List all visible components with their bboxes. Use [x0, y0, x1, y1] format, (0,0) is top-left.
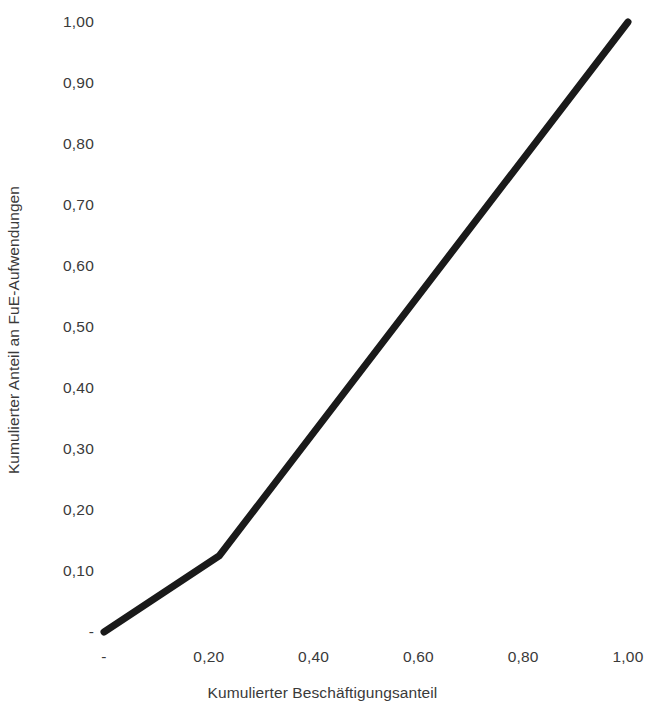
x-axis-tick-label: 0,80: [508, 648, 539, 666]
y-axis-tick-label: 0,10: [30, 562, 94, 580]
y-axis-title-text: Kumulierter Anteil an FuE-Aufwendungen: [5, 186, 23, 474]
x-axis-tick-label: -: [101, 648, 106, 666]
x-axis-tick-label: 0,60: [403, 648, 434, 666]
y-axis-tick-label: 1,00: [30, 13, 94, 31]
y-axis-tick-label: 0,40: [30, 379, 94, 397]
lorenz-curve-chart: Kumulierter Anteil an FuE-Aufwendungen -…: [0, 0, 645, 712]
series-lorenzkurve: [96, 14, 636, 640]
y-axis-tick-label: 0,20: [30, 501, 94, 519]
plot-area: [104, 22, 628, 632]
y-axis-tick-label: -: [30, 623, 94, 641]
x-axis-title: Kumulierter Beschäftigungsanteil: [0, 684, 645, 702]
y-axis-title: Kumulierter Anteil an FuE-Aufwendungen: [0, 0, 28, 660]
x-axis-tick-label: 0,20: [193, 648, 224, 666]
y-axis-tick-labels: -0,100,200,300,400,500,600,700,800,901,0…: [30, 0, 94, 712]
y-axis-tick-label: 0,30: [30, 440, 94, 458]
y-axis-tick-label: 0,90: [30, 74, 94, 92]
y-axis-tick-label: 0,50: [30, 318, 94, 336]
y-axis-tick-label: 0,80: [30, 135, 94, 153]
x-axis-title-text: Kumulierter Beschäftigungsanteil: [208, 684, 438, 701]
x-axis-tick-label: 1,00: [613, 648, 644, 666]
data-line: [104, 22, 628, 632]
x-axis-tick-labels: -0,200,400,600,801,00: [0, 648, 645, 674]
y-axis-tick-label: 0,70: [30, 196, 94, 214]
y-axis-tick-label: 0,60: [30, 257, 94, 275]
x-axis-tick-label: 0,40: [298, 648, 329, 666]
